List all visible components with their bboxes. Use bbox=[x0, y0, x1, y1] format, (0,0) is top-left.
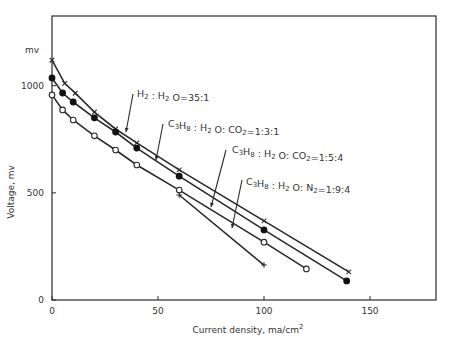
x-tick-label: 100 bbox=[255, 306, 272, 316]
y-tick-label: 1000 bbox=[21, 81, 44, 91]
series-annotations: H2 : H2 O=35:1C3H8 : H2 O: CO2=1:3:1C3H8… bbox=[125, 88, 350, 228]
annotation-label: C3H8 : H2 O: CO2=1:3:1 bbox=[168, 118, 279, 137]
open-circle-marker-icon bbox=[92, 133, 98, 139]
open-circle-marker-icon bbox=[134, 162, 140, 168]
annotation-label: C3H8 : H2 O: N2=1:9:4 bbox=[246, 176, 350, 195]
x-tick-label: 50 bbox=[152, 306, 164, 316]
open-circle-marker-icon bbox=[70, 117, 76, 123]
filled-circle-marker-icon bbox=[343, 278, 350, 285]
x-axis-title: Current density, ma/cm2 bbox=[193, 323, 304, 335]
filled-circle-marker-icon bbox=[176, 173, 183, 180]
open-circle-marker-icon bbox=[176, 187, 182, 193]
series-line bbox=[179, 195, 264, 265]
filled-circle-marker-icon bbox=[49, 75, 56, 82]
x-marker-icon bbox=[347, 270, 352, 275]
annotation-label: H2 : H2 O=35:1 bbox=[137, 88, 209, 103]
y-tick-label: 0 bbox=[38, 295, 44, 305]
filled-circle-marker-icon bbox=[133, 145, 140, 152]
open-circle-marker-icon bbox=[261, 239, 267, 245]
plot-frame bbox=[52, 16, 436, 300]
filled-circle-marker-icon bbox=[70, 99, 77, 106]
x-marker-icon bbox=[92, 110, 97, 115]
plot-border bbox=[52, 16, 436, 300]
x-marker-icon bbox=[262, 219, 267, 224]
arrowhead-icon bbox=[155, 156, 159, 160]
annotation-3: C3H8 : H2 O: CO2=1:5:4 bbox=[210, 144, 343, 207]
x-tick-label: 150 bbox=[361, 306, 378, 316]
series-filled-circle bbox=[49, 75, 350, 285]
x-tick-label: 0 bbox=[49, 306, 55, 316]
filled-circle-marker-icon bbox=[112, 129, 119, 136]
axis-ticks: 05010015005001000 bbox=[21, 81, 379, 316]
series-line bbox=[52, 78, 347, 281]
x-marker-icon bbox=[135, 141, 140, 146]
filled-circle-marker-icon bbox=[261, 227, 268, 234]
open-circle-marker-icon bbox=[113, 147, 119, 153]
arrow-icon bbox=[211, 150, 226, 207]
arrowhead-icon bbox=[125, 128, 129, 132]
open-circle-marker-icon bbox=[60, 107, 66, 113]
y-tick-label: 500 bbox=[27, 188, 44, 198]
arrow-icon bbox=[156, 124, 163, 160]
filled-circle-marker-icon bbox=[59, 90, 66, 97]
open-circle-marker-icon bbox=[304, 266, 310, 272]
series-x bbox=[50, 58, 351, 274]
x-marker-icon bbox=[177, 168, 182, 173]
arrow-icon bbox=[126, 94, 133, 132]
y-axis-title: Voltage, mv bbox=[6, 165, 16, 219]
annotation-label: C3H8 : H2 O: CO2=1:5:4 bbox=[232, 144, 343, 163]
voltage-current-chart: 05010015005001000 H2 : H2 O=35:1C3H8 : H… bbox=[0, 0, 452, 348]
y-axis-unit: mv bbox=[25, 45, 40, 55]
filled-circle-marker-icon bbox=[91, 114, 98, 121]
open-circle-marker-icon bbox=[49, 92, 55, 98]
x-marker-icon bbox=[73, 91, 78, 96]
arrow-icon bbox=[232, 180, 242, 228]
